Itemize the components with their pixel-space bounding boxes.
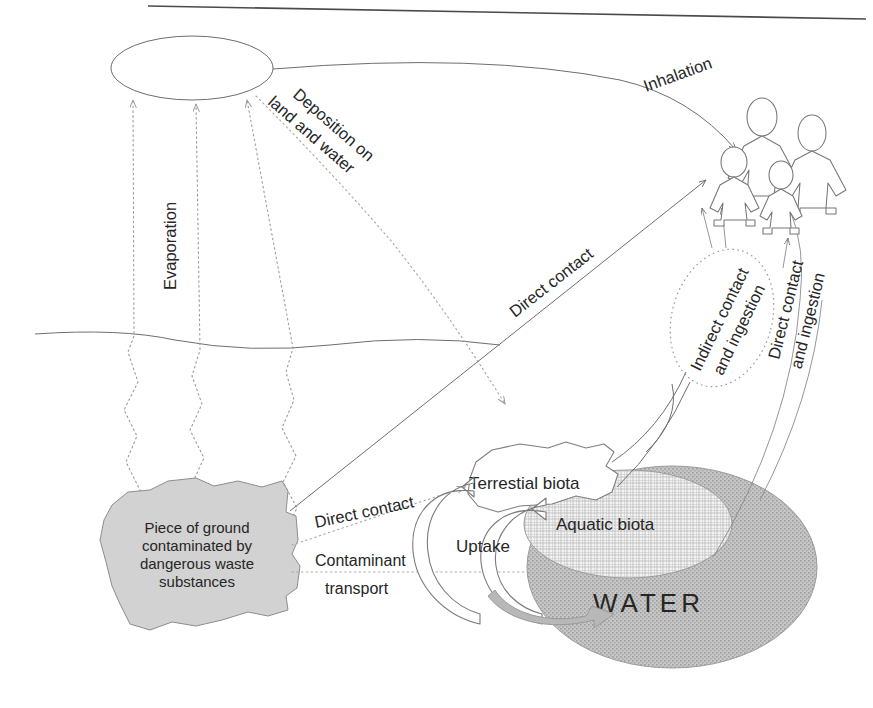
blob-line-2: contaminated by — [142, 537, 253, 554]
exposure-pathway-diagram: Evaporation Deposition on land and water… — [0, 0, 873, 708]
label-terrestial-biota: Terrestial biota — [469, 474, 580, 493]
transport-line-2: transport — [325, 580, 389, 597]
label-indirect-contact: Indirect contact and ingestion — [687, 264, 772, 382]
node-atmosphere — [111, 36, 273, 100]
label-uptake: Uptake — [456, 537, 510, 556]
deposition-arrow — [256, 96, 505, 404]
label-contaminant-transport: Contaminant transport — [315, 552, 406, 597]
label-direct-contact-biota: Direct contact — [313, 492, 416, 531]
label-inhalation: Inhalation — [641, 53, 714, 94]
label-evaporation: Evaporation — [161, 202, 179, 290]
node-contaminated-ground — [100, 478, 300, 630]
transport-line-1: Contaminant — [315, 552, 406, 569]
blob-line-1: Piece of ground — [144, 519, 249, 536]
label-aquatic-biota: Aquatic biota — [556, 515, 655, 534]
blob-line-3: dangerous waste — [140, 555, 254, 572]
diagram-canvas: Evaporation Deposition on land and water… — [0, 0, 873, 708]
node-receptor-family — [710, 98, 846, 234]
blob-line-4: substances — [159, 573, 235, 590]
indirect-lower-link — [646, 384, 674, 452]
ground-surface-line — [35, 332, 500, 349]
page-rule — [148, 6, 866, 19]
label-direct-contact-ground: Direct contact — [506, 244, 597, 321]
label-deposition: Deposition on land and water — [265, 75, 378, 181]
